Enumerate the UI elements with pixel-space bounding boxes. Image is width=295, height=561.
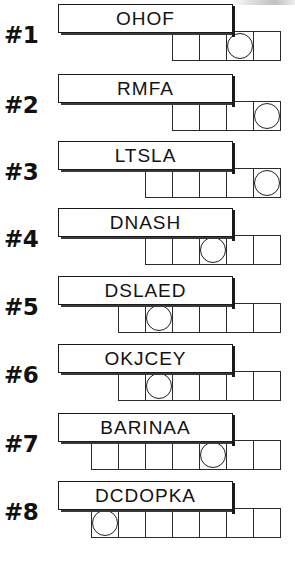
answer-letter-cell[interactable] <box>226 303 254 333</box>
scrambled-word-text: RMFA <box>59 79 232 99</box>
scrambled-word-text: LTSLA <box>59 146 232 166</box>
answer-letter-grid <box>145 235 281 265</box>
word-unscramble-worksheet: #1OHOF#2RMFA#3LTSLA#4DNASH#5DSLAED#6OKJC… <box>0 0 295 561</box>
answer-letter-cell[interactable] <box>253 303 281 333</box>
puzzle-row: #4DNASH <box>0 204 295 268</box>
answer-letter-cell[interactable] <box>226 235 254 265</box>
scrambled-word-box: RMFA <box>58 74 233 103</box>
scrambled-word-box: OHOF <box>58 4 233 33</box>
answer-letter-cell[interactable] <box>226 440 254 470</box>
scrambled-word-text: DSLAED <box>59 281 232 301</box>
circle-icon <box>254 103 280 129</box>
scrambled-word-text: DCDOPKA <box>59 486 232 506</box>
answer-letter-cell[interactable] <box>145 303 173 333</box>
answer-letter-cell[interactable] <box>172 31 200 61</box>
answer-letter-cell[interactable] <box>118 508 146 538</box>
answer-letter-cell[interactable] <box>145 168 173 198</box>
answer-letter-cell[interactable] <box>199 101 227 131</box>
answer-letter-cell[interactable] <box>172 303 200 333</box>
answer-letter-cell[interactable] <box>145 508 173 538</box>
answer-letter-cell[interactable] <box>226 31 254 61</box>
answer-letter-cell[interactable] <box>253 31 281 61</box>
scrambled-word-text: DNASH <box>59 213 232 233</box>
circle-icon <box>200 237 226 263</box>
answer-letter-cell[interactable] <box>199 440 227 470</box>
circle-icon <box>227 33 253 59</box>
answer-letter-cell[interactable] <box>172 440 200 470</box>
answer-letter-cell[interactable] <box>226 101 254 131</box>
row-number-label: #7 <box>4 431 56 457</box>
answer-letter-cell[interactable] <box>91 508 119 538</box>
scrambled-word-text: OKJCEY <box>59 349 232 369</box>
answer-letter-cell[interactable] <box>145 440 173 470</box>
row-number-label: #4 <box>4 226 56 252</box>
answer-letter-grid <box>172 101 281 131</box>
answer-letter-cell[interactable] <box>199 235 227 265</box>
scrambled-word-box: DSLAED <box>58 276 233 305</box>
scrambled-word-box: DCDOPKA <box>58 481 233 510</box>
answer-letter-cell[interactable] <box>226 371 254 401</box>
answer-letter-cell[interactable] <box>199 508 227 538</box>
row-number-label: #1 <box>4 22 56 48</box>
answer-letter-cell[interactable] <box>226 508 254 538</box>
answer-letter-cell[interactable] <box>91 440 119 470</box>
puzzle-row: #5DSLAED <box>0 272 295 336</box>
scrambled-word-box: BARINAA <box>58 413 233 442</box>
answer-letter-cell[interactable] <box>253 440 281 470</box>
answer-letter-grid <box>91 508 281 538</box>
answer-letter-cell[interactable] <box>172 508 200 538</box>
puzzle-row: #3LTSLA <box>0 137 295 201</box>
scrambled-word-box: LTSLA <box>58 141 233 170</box>
scan-artifact <box>231 0 295 5</box>
answer-letter-cell[interactable] <box>172 371 200 401</box>
answer-letter-cell[interactable] <box>253 101 281 131</box>
scrambled-word-text: OHOF <box>59 9 232 29</box>
answer-letter-cell[interactable] <box>172 101 200 131</box>
puzzle-row: #2RMFA <box>0 70 295 134</box>
circle-icon <box>92 510 118 536</box>
answer-letter-cell[interactable] <box>253 235 281 265</box>
answer-letter-cell[interactable] <box>199 168 227 198</box>
answer-letter-cell[interactable] <box>172 235 200 265</box>
puzzle-row: #6OKJCEY <box>0 340 295 404</box>
answer-letter-cell[interactable] <box>199 303 227 333</box>
answer-letter-grid <box>118 371 281 401</box>
answer-letter-grid <box>172 31 281 61</box>
answer-letter-grid <box>91 440 281 470</box>
answer-letter-cell[interactable] <box>118 440 146 470</box>
answer-letter-cell[interactable] <box>253 168 281 198</box>
answer-letter-cell[interactable] <box>253 371 281 401</box>
answer-letter-cell[interactable] <box>118 371 146 401</box>
puzzle-row: #7BARINAA <box>0 409 295 473</box>
answer-letter-cell[interactable] <box>226 168 254 198</box>
scrambled-word-box: OKJCEY <box>58 344 233 373</box>
circle-icon <box>146 373 172 399</box>
circle-icon <box>254 170 280 196</box>
answer-letter-cell[interactable] <box>253 508 281 538</box>
answer-letter-cell[interactable] <box>199 371 227 401</box>
answer-letter-cell[interactable] <box>145 371 173 401</box>
row-number-label: #5 <box>4 294 56 320</box>
answer-letter-grid <box>118 303 281 333</box>
row-number-label: #6 <box>4 362 56 388</box>
puzzle-row: #1OHOF <box>0 0 295 64</box>
answer-letter-grid <box>145 168 281 198</box>
scrambled-word-text: BARINAA <box>59 418 232 438</box>
answer-letter-cell[interactable] <box>172 168 200 198</box>
circle-icon <box>146 305 172 331</box>
scrambled-word-box: DNASH <box>58 208 233 237</box>
row-number-label: #2 <box>4 92 56 118</box>
row-number-label: #3 <box>4 159 56 185</box>
answer-letter-cell[interactable] <box>199 31 227 61</box>
answer-letter-cell[interactable] <box>145 235 173 265</box>
circle-icon <box>200 442 226 468</box>
answer-letter-cell[interactable] <box>118 303 146 333</box>
puzzle-row: #8DCDOPKA <box>0 477 295 541</box>
row-number-label: #8 <box>4 499 56 525</box>
